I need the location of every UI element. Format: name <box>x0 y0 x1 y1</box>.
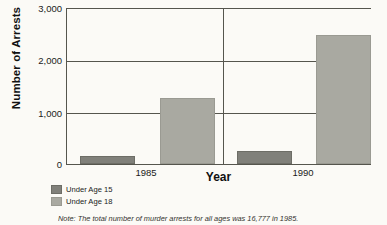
legend-item-under-age-15: Under Age 15 <box>51 184 211 194</box>
legend-swatch-icon-under-age-15 <box>51 185 62 194</box>
y-tick-3000: 3,000 <box>20 4 62 14</box>
bar-1985-under-age-15 <box>80 156 135 164</box>
bar-chart-figure: Number of Arrests 3,000 2,000 1,000 0 19… <box>0 0 387 225</box>
group-divider <box>223 9 224 164</box>
legend-swatch-icon-under-age-18 <box>51 197 62 206</box>
legend-label-under-age-18: Under Age 18 <box>66 197 112 206</box>
y-tick-1000: 1,000 <box>20 109 62 119</box>
chart-legend: Under Age 15 Under Age 18 <box>51 184 211 208</box>
legend-item-under-age-18: Under Age 18 <box>51 196 211 206</box>
bar-1990-under-age-15 <box>237 151 292 164</box>
y-tick-2000: 2,000 <box>20 56 62 66</box>
legend-label-under-age-15: Under Age 15 <box>66 185 112 194</box>
x-axis-title: Year <box>66 170 371 184</box>
y-tick-0: 0 <box>20 160 62 170</box>
bar-1985-under-age-18 <box>160 98 215 164</box>
plot-area <box>66 8 371 165</box>
chart-footnote: Note: The total number of murder arrests… <box>58 214 378 223</box>
bar-1990-under-age-18 <box>316 35 371 164</box>
